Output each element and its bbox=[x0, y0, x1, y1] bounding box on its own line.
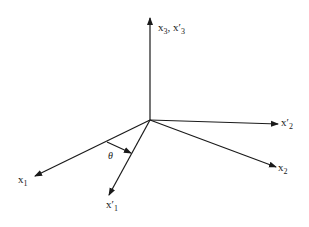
axis-x1 bbox=[35, 120, 150, 176]
theta-label: θ bbox=[108, 151, 113, 161]
label-x1-prime: x′1 bbox=[106, 199, 118, 213]
axis-x1-prime bbox=[109, 120, 150, 195]
label-x2: x2 bbox=[278, 162, 288, 176]
label-x1: x1 bbox=[18, 174, 28, 188]
label-x2-prime: x′2 bbox=[281, 117, 293, 131]
rotation-diagram: x3, x′3 x′2 x2 x1 x′1 θ bbox=[0, 0, 309, 227]
axis-x2 bbox=[150, 120, 276, 167]
label-x3: x3, x′3 bbox=[158, 22, 185, 36]
axis-x2-prime bbox=[150, 120, 278, 124]
axes-drawing bbox=[0, 0, 309, 227]
